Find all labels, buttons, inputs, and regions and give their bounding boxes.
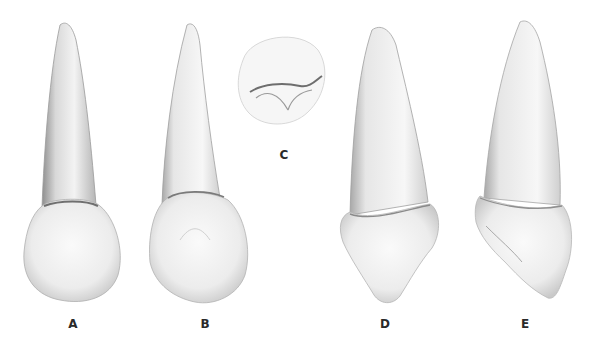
tooth-view-b — [150, 24, 248, 303]
view-label-b: B — [200, 317, 209, 331]
view-label-c: C — [280, 148, 289, 162]
view-label-d: D — [380, 317, 390, 331]
tooth-view-e — [475, 21, 571, 298]
view-label-e: E — [521, 317, 529, 331]
tooth-view-d — [340, 27, 438, 302]
tooth-view-c — [238, 37, 325, 124]
tooth-view-a — [24, 23, 120, 301]
view-label-a: A — [68, 317, 77, 331]
tooth-illustration — [0, 0, 589, 346]
